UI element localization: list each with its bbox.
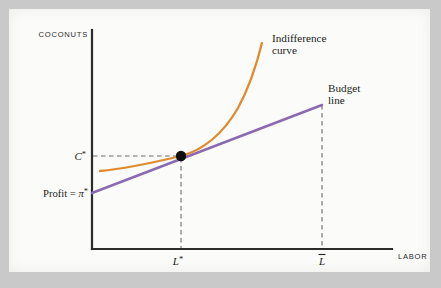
l-star-asterisk: * [179,254,183,264]
l-bar-base: L [318,255,325,267]
l-star-base: L [172,255,179,267]
c-star-tick-label: C* [74,149,86,162]
profit-label: Profit = π* [43,186,88,199]
budget-label-line2: line [328,94,345,106]
l-bar-tick-label: L [318,255,326,268]
budget-line-annotation: Budget line [328,82,361,106]
figure-root: COCONUTS LABOR C* L* L Profit = π* Indif… [0,0,441,288]
profit-asterisk: * [84,186,88,196]
indifference-label-line1: Indifference [272,32,326,44]
x-axis-title: LABOR [398,252,428,261]
indifference-curve-annotation: Indifference curve [272,32,326,56]
l-star-tick-label: L* [172,254,183,267]
indifference-label-line2: curve [272,44,297,56]
dashed-guides-group [93,105,322,248]
budget-label-line1: Budget [328,82,361,94]
budget-line-curve [92,105,322,193]
c-star-asterisk: * [82,149,86,159]
robinson-crusoe-chart: COCONUTS LABOR C* L* L Profit = π* Indif… [0,0,441,288]
equilibrium-point-marker [176,151,186,161]
y-axis-title: COCONUTS [39,30,88,39]
profit-text: Profit = [43,188,78,199]
axes-group [92,30,392,249]
